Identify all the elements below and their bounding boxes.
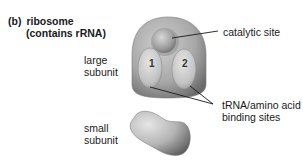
label-large-subunit-word: subunit [84, 66, 118, 78]
label-small-subunit: small subunit [84, 122, 118, 146]
binding-site-1: 1 [138, 48, 162, 88]
site-number-1: 1 [149, 58, 155, 69]
label-catalytic-site: catalytic site [223, 26, 280, 38]
small-subunit-shape [130, 111, 190, 155]
label-trna-amino-acid: tRNA/amino acid [222, 99, 301, 111]
label-small: small [84, 122, 118, 134]
label-binding-sites-word: binding sites [222, 111, 301, 123]
ribosome-diagram: 1 2 [0, 0, 303, 162]
label-small-subunit-word: subunit [84, 134, 118, 146]
binding-site-2: 2 [172, 49, 196, 89]
site-number-2: 2 [182, 58, 188, 69]
label-large-subunit: large subunit [84, 54, 118, 78]
label-binding-sites: tRNA/amino acid binding sites [222, 99, 301, 123]
label-large: large [84, 54, 118, 66]
